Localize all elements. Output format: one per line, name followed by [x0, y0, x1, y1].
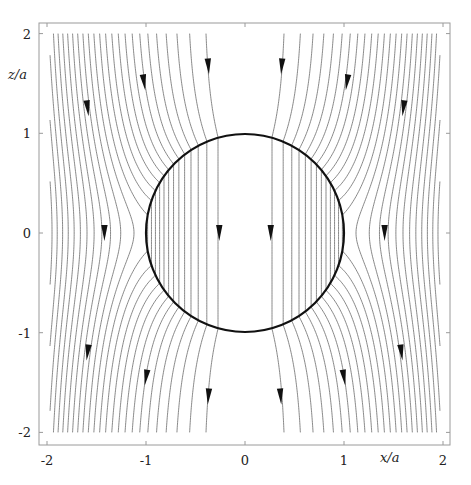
flow-arrows-group: [83, 58, 407, 404]
streamline: [100, 34, 148, 433]
streamline: [422, 34, 437, 433]
flow-arrow-icon: [85, 344, 91, 360]
streamline: [388, 34, 412, 433]
streamline: [78, 34, 102, 433]
flow-arrow-icon: [216, 225, 222, 241]
flow-arrow-icon: [340, 369, 346, 385]
flow-arrow-icon: [381, 225, 387, 241]
streamline: [433, 120, 440, 346]
streamline: [94, 34, 134, 433]
flow-arrow-icon: [268, 225, 274, 241]
x-axis-label: x/a: [380, 450, 399, 465]
streamline: [73, 34, 95, 433]
y-tick-label: 1: [23, 126, 31, 141]
streamline: [50, 120, 57, 346]
flow-arrow-icon: [345, 74, 351, 90]
sphere-outline: [146, 134, 344, 332]
y-axis-label: z/a: [7, 67, 27, 82]
streamline: [356, 34, 396, 433]
y-tick-label: -2: [18, 425, 31, 440]
streamline: [272, 34, 284, 433]
flow-arrow-icon: [144, 369, 150, 385]
streamline: [53, 34, 68, 433]
streamline: [305, 34, 333, 433]
y-tick-label: 2: [23, 27, 31, 42]
streamline-figure: -2-1012210-1-2 x/a z/a: [0, 0, 471, 485]
y-tick-label: -1: [18, 326, 31, 341]
x-tick-label: -2: [41, 453, 54, 468]
streamline: [157, 34, 185, 433]
y-tick-label: 0: [23, 226, 31, 241]
x-tick-label: 2: [439, 453, 447, 468]
x-tick-label: 0: [241, 453, 249, 468]
streamline: [50, 181, 52, 284]
streamline: [206, 34, 218, 433]
flow-arrow-icon: [140, 74, 146, 90]
flow-arrow-icon: [206, 388, 212, 404]
streamline: [438, 181, 440, 284]
streamline: [396, 34, 418, 433]
x-tick-label: 1: [340, 453, 348, 468]
streamlines-group: [50, 34, 440, 433]
x-tick-label: -1: [140, 453, 153, 468]
flow-arrow-icon: [401, 100, 407, 116]
